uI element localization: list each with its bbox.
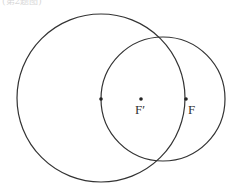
geometry-diagram: F′ F xyxy=(0,0,231,191)
left-intersection-point xyxy=(99,97,103,101)
small-circle xyxy=(101,37,225,161)
label-f-prime: F′ xyxy=(135,102,145,117)
label-f: F xyxy=(188,102,195,117)
point-f xyxy=(184,97,188,101)
point-f-prime xyxy=(139,97,143,101)
